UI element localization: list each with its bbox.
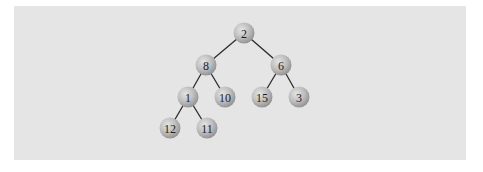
node-label: 11: [201, 122, 213, 136]
node-label: 3: [296, 91, 302, 105]
node-label: 8: [203, 59, 209, 73]
node-label: 15: [256, 91, 268, 105]
tree-node: 1: [178, 87, 199, 108]
node-label: 12: [164, 122, 176, 136]
binary-tree-diagram: 2861101531211: [0, 0, 483, 172]
node-label: 2: [241, 27, 247, 41]
tree-nodes: 2861101531211: [160, 23, 310, 139]
node-label: 6: [278, 59, 284, 73]
tree-node: 3: [289, 87, 310, 108]
tree-node: 12: [160, 118, 181, 139]
tree-node: 15: [252, 87, 273, 108]
tree-edges: [170, 33, 299, 128]
tree-node: 6: [271, 55, 292, 76]
node-label: 10: [219, 91, 231, 105]
tree-node: 10: [215, 87, 236, 108]
tree-node: 2: [234, 23, 255, 44]
tree-node: 8: [196, 55, 217, 76]
node-label: 1: [185, 91, 191, 105]
tree-node: 11: [197, 118, 218, 139]
